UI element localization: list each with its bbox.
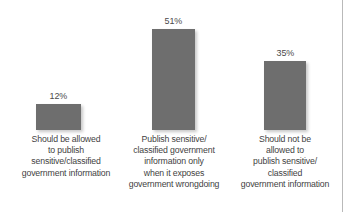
category-label-3-line-2: allowed to <box>234 145 337 156</box>
bar-group-2: 51% <box>152 16 195 131</box>
category-label-2-line-5: government wrongdoing <box>124 179 225 190</box>
bar-group-3: 35% <box>264 48 306 131</box>
bar-value-label-2: 51% <box>165 16 183 26</box>
category-label-1-line-1: Should be allowed <box>17 134 116 145</box>
category-label-3-line-5: government information <box>234 179 337 190</box>
category-label-2-line-4: when it exposes <box>124 168 225 179</box>
category-label-3-line-1: Should not be <box>234 134 337 145</box>
plot-area: 12% 51% 35% Should be allowed to publish… <box>0 0 352 212</box>
category-label-3: Should not be allowed to publish sensiti… <box>234 134 337 190</box>
bar-3 <box>264 61 306 130</box>
category-label-2-line-2: classified government <box>124 145 225 156</box>
bar-chart: 12% 51% 35% Should be allowed to publish… <box>0 0 352 212</box>
category-label-1-line-3: sensitive/classified <box>17 156 116 167</box>
bar-group-1: 12% <box>36 91 81 131</box>
bar-2 <box>152 29 195 130</box>
category-label-1-line-2: to publish <box>17 145 116 156</box>
frame-right-rule <box>342 0 343 212</box>
category-label-2-line-1: Publish sensitive/ <box>124 134 225 145</box>
bar-value-label-1: 12% <box>50 91 68 101</box>
bar-1 <box>36 104 81 130</box>
category-label-3-line-4: classified <box>234 168 337 179</box>
category-label-2: Publish sensitive/ classified government… <box>124 134 225 190</box>
bar-value-label-3: 35% <box>276 48 294 58</box>
category-label-2-line-3: information only <box>124 156 225 167</box>
category-label-1-line-4: government information <box>17 168 116 179</box>
category-label-3-line-3: publish sensitive/ <box>234 156 337 167</box>
category-label-1: Should be allowed to publish sensitive/c… <box>17 134 116 179</box>
